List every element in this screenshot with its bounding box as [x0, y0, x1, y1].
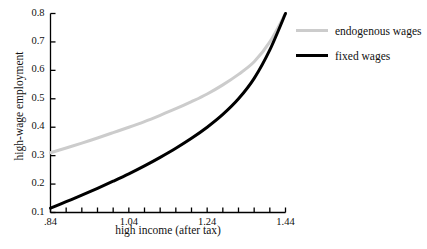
series-lines	[51, 14, 286, 209]
chart-legend: endogenous wages fixed wages	[296, 18, 427, 68]
chart-figure: high-wage employment high income (after …	[0, 0, 427, 249]
legend-label-endogenous-wages: endogenous wages	[335, 25, 422, 37]
legend-label-fixed-wages: fixed wages	[335, 50, 390, 62]
legend-item-endogenous-wages: endogenous wages	[296, 18, 427, 43]
legend-item-fixed-wages: fixed wages	[296, 43, 427, 68]
legend-swatch-endogenous-wages	[296, 29, 328, 32]
legend-swatch-fixed-wages	[296, 54, 328, 57]
